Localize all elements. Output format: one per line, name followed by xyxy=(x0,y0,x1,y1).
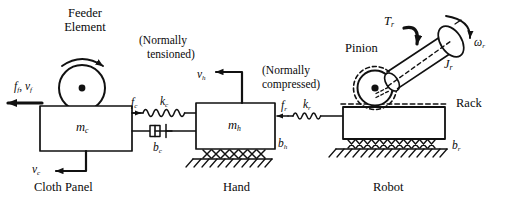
motor-torque-subscript: r xyxy=(391,20,394,29)
diagram-canvas: Feeder Element (Normally tensioned) (Nor… xyxy=(0,0,519,200)
hand-velocity-subscript: h xyxy=(202,74,206,82)
feeder-roller-icon xyxy=(59,59,105,111)
caption-robot: Robot xyxy=(373,180,404,195)
motor-angular-velocity-label: ωr xyxy=(474,36,485,50)
cloth-damper-label: bc xyxy=(153,141,162,155)
rack-force-label: fr xyxy=(281,99,287,113)
cloth-spring-damper-group xyxy=(132,110,196,138)
cloth-spring-force-subscript: c xyxy=(134,102,137,110)
motor-inertia-label: Jr xyxy=(444,57,453,72)
rack-spring-label: kr xyxy=(303,98,311,112)
hand-velocity-arrow xyxy=(216,72,242,103)
normally-compressed-label-line1: (Normally xyxy=(262,64,310,76)
motor-inertia-subscript: r xyxy=(450,63,453,72)
robot-rack-block xyxy=(341,104,447,139)
hand-mass-symbol: m xyxy=(228,118,237,132)
cloth-spring-force-label: fc xyxy=(131,96,137,110)
rack-spring-group xyxy=(277,113,343,119)
hand-mass-subscript: h xyxy=(237,124,241,133)
motor-angular-velocity-subscript: r xyxy=(482,42,485,50)
cloth-mass-symbol: m xyxy=(76,120,85,134)
normally-tensioned-label-line1: (Normally xyxy=(139,34,187,46)
feeder-element-label-line2: Element xyxy=(50,20,120,35)
pinion-label: Pinion xyxy=(345,41,378,56)
motor-torque-label: Tr xyxy=(384,14,394,29)
cloth-spring-subscript: c xyxy=(165,101,168,109)
robot-friction-ground-icon xyxy=(329,140,447,157)
cloth-mass-label: mc xyxy=(76,120,88,135)
cloth-velocity-arrow xyxy=(56,151,86,171)
cloth-mass-subscript: c xyxy=(85,126,88,135)
normally-tensioned-label-line2: tensioned) xyxy=(147,48,195,60)
caption-hand: Hand xyxy=(223,180,250,195)
feeder-force-velocity-label: ff, vf xyxy=(14,80,32,94)
robot-damper-label: br xyxy=(452,139,461,153)
normally-compressed-label-line2: compressed) xyxy=(262,78,320,90)
hand-damper-label: bh xyxy=(278,137,287,151)
motor-torque-symbol: T xyxy=(384,14,391,28)
rack-spring-subscript: r xyxy=(308,104,311,112)
cloth-spring-label: kc xyxy=(160,95,168,109)
hand-mass-label: mh xyxy=(228,118,241,133)
cloth-damper-subscript: c xyxy=(159,147,162,155)
feeder-element-label-line1: Feeder xyxy=(50,6,120,21)
hand-friction-ground-icon xyxy=(186,150,272,167)
rack-label: Rack xyxy=(456,96,482,111)
motor-angular-velocity-symbol: ω xyxy=(474,36,482,48)
hand-velocity-label: vh xyxy=(197,68,206,82)
rack-force-subscript: r xyxy=(284,105,287,113)
feeder-velocity-subscript: f xyxy=(30,86,32,94)
cloth-velocity-label: vc xyxy=(32,163,40,177)
cloth-velocity-subscript: c xyxy=(37,169,40,177)
robot-damper-subscript: r xyxy=(458,145,461,153)
caption-cloth-panel: Cloth Panel xyxy=(34,180,93,195)
hand-damper-subscript: h xyxy=(284,143,288,151)
